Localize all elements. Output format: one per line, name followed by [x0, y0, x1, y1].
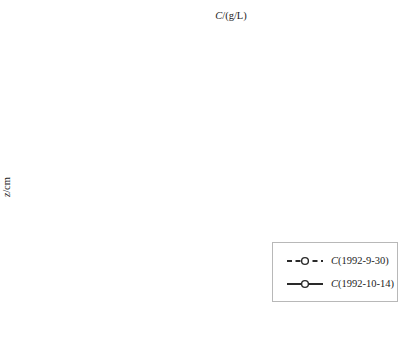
legend-item-1992-9-30: C(1992-9-30) — [286, 255, 397, 266]
legend-label: C(1992-9-30) — [331, 255, 389, 266]
x-axis-title: C/(g/L) — [215, 10, 247, 22]
legend-item-1992-10-14: C(1992-10-14) — [286, 278, 397, 289]
concentration-depth-figure: C/(g/L) z/cm C(1992-9-30) C(1992-10-14) — [0, 0, 417, 350]
chart-legend: C(1992-9-30) C(1992-10-14) — [272, 242, 398, 302]
y-axis-title: z/cm — [1, 177, 12, 198]
legend-label: C(1992-10-14) — [331, 278, 394, 289]
solid-line-sample-icon — [286, 279, 324, 289]
dashed-line-sample-icon — [286, 256, 324, 266]
